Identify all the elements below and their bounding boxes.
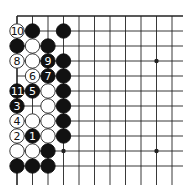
go-board-diagram: 1089671153421: [0, 0, 191, 185]
move-number-label: 3: [14, 100, 21, 113]
move-number-label: 8: [14, 55, 21, 68]
black-stone: [41, 159, 55, 173]
black-stone: 3: [10, 99, 24, 113]
white-stone: [25, 39, 39, 53]
black-stone: 5: [25, 84, 39, 98]
black-stone-icon: [41, 144, 55, 158]
star-point-icon: [154, 59, 158, 63]
black-stone-icon: [56, 69, 70, 83]
black-stone: 7: [41, 69, 55, 83]
move-number-label: 9: [45, 55, 52, 68]
black-stone: 9: [41, 54, 55, 68]
white-stone: [41, 129, 55, 143]
white-stone-icon: [41, 129, 55, 143]
black-stone: [56, 84, 70, 98]
black-stone-icon: [56, 129, 70, 143]
white-stone: [10, 144, 24, 158]
black-stone-icon: [10, 39, 24, 53]
star-point-icon: [61, 149, 65, 153]
black-stone-icon: [56, 114, 70, 128]
white-stone: 6: [25, 69, 39, 83]
black-stone: [25, 24, 39, 38]
black-stone: [25, 159, 39, 173]
black-stone: [56, 99, 70, 113]
black-stone: 11: [10, 84, 24, 98]
black-stone-icon: [56, 54, 70, 68]
move-number-label: 1: [29, 130, 36, 143]
black-stone-icon: [56, 84, 70, 98]
move-number-label: 5: [29, 85, 36, 98]
white-stone: 4: [10, 114, 24, 128]
black-stone: [56, 69, 70, 83]
go-board-svg: 1089671153421: [0, 0, 191, 185]
white-stone-icon: [10, 144, 24, 158]
black-stone: [56, 54, 70, 68]
move-number-label: 11: [11, 85, 23, 98]
white-stone: [41, 114, 55, 128]
black-stone: [10, 39, 24, 53]
white-stone-icon: [25, 114, 39, 128]
white-stone: [41, 99, 55, 113]
black-stone: [41, 39, 55, 53]
white-stone: [41, 84, 55, 98]
black-stone-icon: [41, 159, 55, 173]
move-number-label: 4: [14, 115, 21, 128]
white-stone: [25, 114, 39, 128]
white-stone-icon: [25, 39, 39, 53]
white-stone-icon: [41, 114, 55, 128]
black-stone: [41, 144, 55, 158]
star-point-icon: [154, 149, 158, 153]
black-stone: [56, 114, 70, 128]
move-number-label: 6: [29, 70, 36, 83]
move-number-label: 7: [45, 70, 52, 83]
black-stone-icon: [25, 159, 39, 173]
move-number-label: 10: [11, 25, 24, 38]
white-stone-icon: [25, 54, 39, 68]
white-stone: 8: [10, 54, 24, 68]
white-stone: [25, 144, 39, 158]
white-stone-icon: [41, 84, 55, 98]
grid-lines: [17, 16, 183, 185]
black-stone-icon: [41, 39, 55, 53]
black-stone-icon: [25, 24, 39, 38]
white-stone: 2: [10, 129, 24, 143]
black-stone-icon: [10, 159, 24, 173]
white-stone: [25, 54, 39, 68]
black-stone: [56, 129, 70, 143]
black-stone: [56, 24, 70, 38]
white-stone-icon: [25, 144, 39, 158]
black-stone-icon: [56, 24, 70, 38]
black-stone: 1: [25, 129, 39, 143]
black-stone-icon: [56, 99, 70, 113]
move-number-label: 2: [14, 130, 21, 143]
black-stone: [10, 159, 24, 173]
white-stone-icon: [41, 99, 55, 113]
white-stone: 10: [10, 24, 24, 38]
